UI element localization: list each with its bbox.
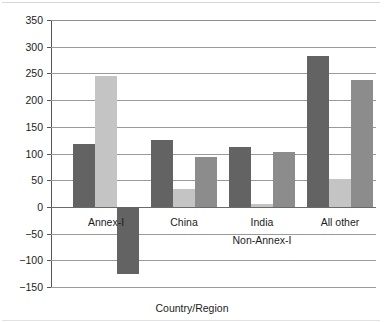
y-axis-tick bbox=[47, 47, 51, 48]
bar bbox=[195, 157, 217, 207]
x-axis-category-label: Annex-I bbox=[61, 216, 151, 228]
x-axis-category-label: China bbox=[139, 216, 229, 228]
y-axis-tick bbox=[47, 100, 51, 101]
gridline bbox=[51, 260, 376, 261]
scan-artifact-top bbox=[2, 2, 380, 3]
y-axis-tick bbox=[47, 20, 51, 21]
bar bbox=[273, 152, 295, 207]
group-bracket-label: Non-Annex-I bbox=[217, 234, 307, 246]
x-axis-category-label: India bbox=[217, 216, 307, 228]
y-axis-tick bbox=[47, 180, 51, 181]
y-axis-tick-label: −150 bbox=[0, 282, 43, 292]
bar bbox=[251, 204, 273, 207]
gridline bbox=[51, 207, 376, 208]
y-axis-tick bbox=[47, 260, 51, 261]
bar bbox=[151, 140, 173, 207]
y-axis-tick-label: 300 bbox=[0, 42, 43, 52]
x-axis-category-label: All other bbox=[295, 216, 384, 228]
gridline bbox=[51, 287, 376, 288]
gridline bbox=[51, 20, 376, 21]
plot-area bbox=[51, 20, 376, 287]
y-axis-tick bbox=[47, 287, 51, 288]
gridline bbox=[51, 47, 376, 48]
y-axis-tick-label: 250 bbox=[0, 68, 43, 78]
y-axis-tick-label: −100 bbox=[0, 255, 43, 265]
y-axis-tick-label: −50 bbox=[0, 229, 43, 239]
bar bbox=[229, 147, 251, 207]
bar bbox=[351, 80, 373, 207]
bar bbox=[73, 144, 95, 207]
y-axis-tick bbox=[47, 234, 51, 235]
y-axis-tick-label: 50 bbox=[0, 175, 43, 185]
bar bbox=[95, 76, 117, 207]
y-axis-tick-label: 150 bbox=[0, 122, 43, 132]
bar bbox=[173, 189, 195, 207]
y-axis-tick-label: 200 bbox=[0, 95, 43, 105]
y-axis-tick bbox=[47, 207, 51, 208]
y-axis-tick-label: 0 bbox=[0, 202, 43, 212]
y-axis-tick-label: 100 bbox=[0, 149, 43, 159]
y-axis-tick bbox=[47, 154, 51, 155]
chart-figure: Gt Carbon 350300250200150100500−50−100−1… bbox=[0, 0, 384, 322]
gridline bbox=[51, 234, 376, 235]
bar bbox=[329, 179, 351, 207]
y-axis-tick-label: 350 bbox=[0, 15, 43, 25]
x-axis-label: Country/Region bbox=[0, 302, 384, 314]
y-axis-tick bbox=[47, 127, 51, 128]
y-axis-tick bbox=[47, 73, 51, 74]
scan-artifact-bottom bbox=[2, 320, 380, 321]
bar bbox=[307, 56, 329, 207]
